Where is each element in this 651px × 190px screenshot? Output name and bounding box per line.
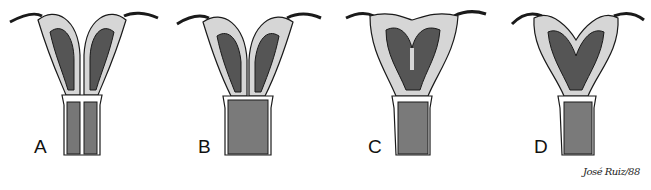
panel-label-d: D xyxy=(534,136,548,158)
panel-b: B xyxy=(165,0,325,190)
panel-a: A xyxy=(0,0,165,190)
uterus-diagram-c xyxy=(330,0,490,190)
uterus-diagram-a xyxy=(0,0,165,190)
uterus-diagram-d xyxy=(490,0,651,190)
panel-label-a: A xyxy=(34,136,47,158)
panel-c: C xyxy=(330,0,490,190)
uterus-diagram-b xyxy=(165,0,325,190)
artist-signature: José Ruiz/88 xyxy=(583,166,640,177)
panel-d: D xyxy=(490,0,651,190)
panel-label-c: C xyxy=(368,136,382,158)
panel-label-b: B xyxy=(198,136,211,158)
